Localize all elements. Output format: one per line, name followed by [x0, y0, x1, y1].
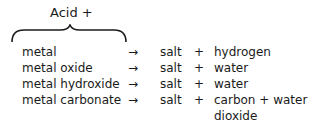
curly-brace-icon	[10, 24, 130, 44]
other-products-line2: dioxide	[214, 109, 257, 123]
reactant: metal hydroxide	[22, 77, 120, 91]
arrow-icon: →	[128, 93, 138, 107]
plus-sign: +	[194, 61, 204, 75]
arrow-icon: →	[128, 77, 138, 91]
product-salt: salt	[160, 45, 182, 59]
acid-plus-title: Acid +	[50, 6, 93, 20]
other-products: hydrogen	[214, 45, 271, 59]
arrow-icon: →	[128, 45, 138, 59]
reactant: metal carbonate	[22, 93, 121, 107]
product-salt: salt	[160, 93, 182, 107]
product-salt: salt	[160, 77, 182, 91]
other-products: water	[214, 61, 248, 75]
reactant: metal	[22, 45, 56, 59]
other-products: carbon + water	[214, 93, 307, 107]
arrow-icon: →	[128, 61, 138, 75]
plus-sign: +	[194, 45, 204, 59]
reactant: metal oxide	[22, 61, 93, 75]
plus-sign: +	[194, 93, 204, 107]
other-products: water	[214, 77, 248, 91]
plus-sign: +	[194, 77, 204, 91]
product-salt: salt	[160, 61, 182, 75]
